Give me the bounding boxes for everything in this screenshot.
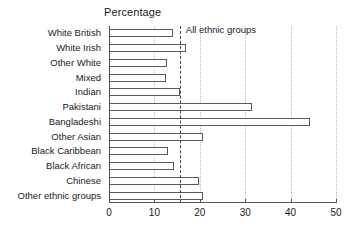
x-tick-20 [200, 199, 201, 203]
bar [109, 74, 166, 82]
x-tick-label: 40 [285, 207, 296, 218]
category-label: Mixed [76, 73, 101, 83]
x-tick-label: 20 [194, 207, 205, 218]
category-label: Bangladeshi [49, 117, 101, 127]
plot-inner [109, 26, 336, 203]
bar-row [109, 70, 336, 85]
x-tick-50 [336, 199, 337, 203]
bar-row [109, 188, 336, 203]
category-axis-labels: White BritishWhite IrishOther WhiteMixed… [0, 26, 105, 203]
bar-row [109, 174, 336, 189]
bar-row [109, 85, 336, 100]
bar-row [109, 41, 336, 56]
bar [109, 162, 174, 170]
category-label: Other Asian [51, 132, 101, 142]
bar [109, 44, 186, 52]
bar-row [109, 56, 336, 71]
category-label: Other ethnic groups [18, 191, 101, 201]
bar-row [109, 144, 336, 159]
x-tick-30 [245, 199, 246, 203]
category-label: White Irish [56, 43, 101, 53]
x-axis-line [109, 202, 336, 203]
x-tick-0 [109, 199, 110, 203]
bar-row [109, 129, 336, 144]
category-label: White British [48, 28, 101, 38]
category-label: Other White [50, 58, 101, 68]
x-tick-10 [154, 199, 155, 203]
bar-row [109, 100, 336, 115]
x-tick-40 [291, 199, 292, 203]
reference-line [180, 26, 181, 203]
chart-title: Percentage [104, 6, 161, 18]
x-tick-label: 10 [149, 207, 160, 218]
bar [109, 59, 167, 67]
bar [109, 177, 199, 185]
bar [109, 88, 180, 96]
y-axis-line [109, 26, 110, 203]
bar [109, 133, 203, 141]
plot-area [109, 26, 336, 203]
category-label: Chinese [66, 176, 101, 186]
x-tick-label: 0 [106, 207, 112, 218]
gridline-50 [336, 26, 338, 203]
reference-line-label: All ethnic groups [186, 24, 256, 35]
bar [109, 147, 168, 155]
x-tick-label: 50 [330, 207, 341, 218]
x-tick-label: 30 [240, 207, 251, 218]
category-label: Black Caribbean [31, 146, 101, 156]
category-label: Black African [46, 161, 101, 171]
bar-chart: Percentage White BritishWhite IrishOther… [0, 0, 345, 233]
bar [109, 192, 203, 200]
category-label: Indian [75, 87, 101, 97]
category-label: Pakistani [62, 102, 101, 112]
bar [109, 118, 310, 126]
bar-row [109, 115, 336, 130]
bar-row [109, 159, 336, 174]
bar [109, 29, 173, 37]
